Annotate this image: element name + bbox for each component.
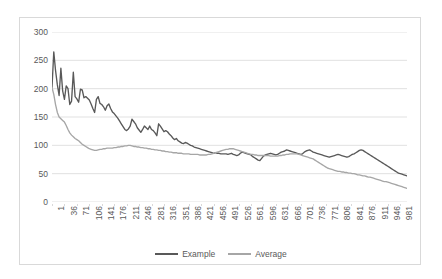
y-axis-tick-label: 250: [34, 55, 48, 65]
legend-item[interactable]: Average: [228, 250, 287, 259]
chart-legend: ExampleAverage: [20, 246, 422, 262]
x-axis-tick-mark: [201, 204, 202, 206]
legend-label: Average: [255, 250, 287, 259]
x-axis-tick-label: 596: [268, 206, 278, 220]
x-axis-tick-mark: [139, 204, 140, 206]
x-axis-tick-label: 1: [56, 206, 66, 211]
x-axis-tick-label: 106: [94, 206, 104, 220]
x-axis-tick-label: 141: [106, 206, 116, 220]
x-axis-tick-label: 736: [317, 206, 327, 220]
x-axis-tick-mark: [102, 204, 103, 206]
x-axis-tick-mark: [326, 204, 327, 206]
x-axis-tick-mark: [189, 204, 190, 206]
x-axis-tick-mark: [52, 204, 53, 206]
x-axis-tick-mark: [89, 204, 90, 206]
x-axis-tick-label: 946: [392, 206, 402, 220]
y-axis: 050100150200250300: [20, 18, 52, 216]
x-axis-tick-mark: [114, 204, 115, 206]
y-axis-tick-label: 300: [34, 27, 48, 37]
x-axis-tick-mark: [363, 204, 364, 206]
x-axis-tick-mark: [351, 204, 352, 206]
plot-area: [52, 32, 407, 202]
x-axis-tick-label: 841: [355, 206, 365, 220]
x-axis: 1367110614117621124628131635138642145649…: [52, 204, 407, 246]
x-axis-tick-label: 281: [156, 206, 166, 220]
x-axis-tick-mark: [127, 204, 128, 206]
x-axis-tick-label: 246: [143, 206, 153, 220]
x-axis-tick-mark: [400, 204, 401, 206]
x-axis-tick-label: 911: [380, 206, 390, 220]
x-axis-tick-mark: [263, 204, 264, 206]
x-axis-tick-label: 456: [218, 206, 228, 220]
y-axis-tick-label: 100: [34, 140, 48, 150]
legend-line-swatch: [155, 253, 178, 255]
x-axis-tick-mark: [152, 204, 153, 206]
x-axis-tick-label: 666: [293, 206, 303, 220]
x-axis-tick-mark: [77, 204, 78, 206]
x-axis-tick-mark: [313, 204, 314, 206]
x-axis-tick-label: 876: [367, 206, 377, 220]
legend-item[interactable]: Example: [155, 250, 215, 259]
x-axis-tick-label: 211: [131, 206, 141, 220]
x-axis-tick-label: 491: [230, 206, 240, 220]
y-axis-tick-label: 200: [34, 84, 48, 94]
x-axis-tick-label: 806: [342, 206, 352, 220]
x-axis-tick-mark: [251, 204, 252, 206]
x-axis-tick-label: 386: [193, 206, 203, 220]
x-axis-tick-mark: [226, 204, 227, 206]
x-axis-tick-label: 71: [81, 206, 91, 215]
x-axis-tick-mark: [338, 204, 339, 206]
legend-line-swatch: [228, 253, 251, 255]
x-axis-tick-label: 981: [404, 206, 414, 220]
y-axis-tick-label: 0: [43, 197, 48, 207]
y-axis-tick-label: 50: [39, 169, 48, 179]
x-axis-tick-label: 176: [118, 206, 128, 220]
x-axis-tick-label: 351: [181, 206, 191, 220]
x-axis-tick-label: 701: [305, 206, 315, 220]
x-axis-tick-label: 421: [205, 206, 215, 220]
x-axis-tick-mark: [239, 204, 240, 206]
x-axis-tick-mark: [214, 204, 215, 206]
x-axis-tick-label: 316: [168, 206, 178, 220]
chart-container: 050100150200250300 136711061411762112462…: [19, 17, 421, 265]
legend-label: Example: [182, 250, 215, 259]
y-axis-tick-label: 150: [34, 112, 48, 122]
x-axis-tick-mark: [64, 204, 65, 206]
x-axis-tick-label: 771: [330, 206, 340, 220]
x-axis-tick-label: 561: [255, 206, 265, 220]
x-axis-tick-label: 631: [280, 206, 290, 220]
x-axis-tick-mark: [388, 204, 389, 206]
x-axis-tick-label: 526: [243, 206, 253, 220]
x-axis-tick-mark: [276, 204, 277, 206]
x-axis-tick-label: 36: [69, 206, 79, 215]
x-axis-tick-mark: [176, 204, 177, 206]
x-axis-tick-mark: [301, 204, 302, 206]
x-axis-tick-mark: [164, 204, 165, 206]
x-axis-tick-mark: [375, 204, 376, 206]
x-axis-tick-mark: [288, 204, 289, 206]
series-lines: [52, 32, 407, 202]
